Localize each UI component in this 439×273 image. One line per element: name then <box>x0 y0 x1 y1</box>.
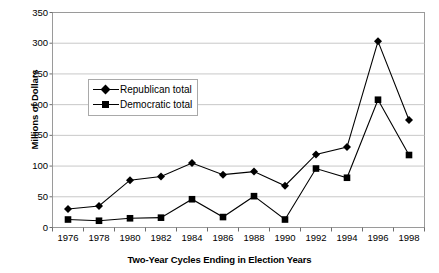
republican-series-diamond-marker-icon <box>93 83 119 97</box>
line-chart: 050100150200250300350 197619781980198219… <box>0 0 439 273</box>
y-tick-label: 0 <box>18 223 48 233</box>
x-axis-title: Two-Year Cycles Ending in Election Years <box>0 254 439 265</box>
legend-label-republican: Republican total <box>119 84 192 95</box>
y-tick-label: 350 <box>18 8 48 18</box>
x-axis-tick-labels: 1976197819801982198419861988199019921994… <box>52 0 425 273</box>
y-axis-title: Millions of Dollars <box>29 30 40 190</box>
legend-item-republican: Republican total <box>93 82 192 97</box>
y-tick-label: 50 <box>18 192 48 202</box>
chart-legend: Republican total Democratic total <box>88 79 198 116</box>
democratic-series-square-marker-icon <box>93 98 119 112</box>
legend-label-democratic: Democratic total <box>119 99 192 110</box>
legend-item-democratic: Democratic total <box>93 97 192 112</box>
x-tick-label: 1998 <box>387 232 431 243</box>
